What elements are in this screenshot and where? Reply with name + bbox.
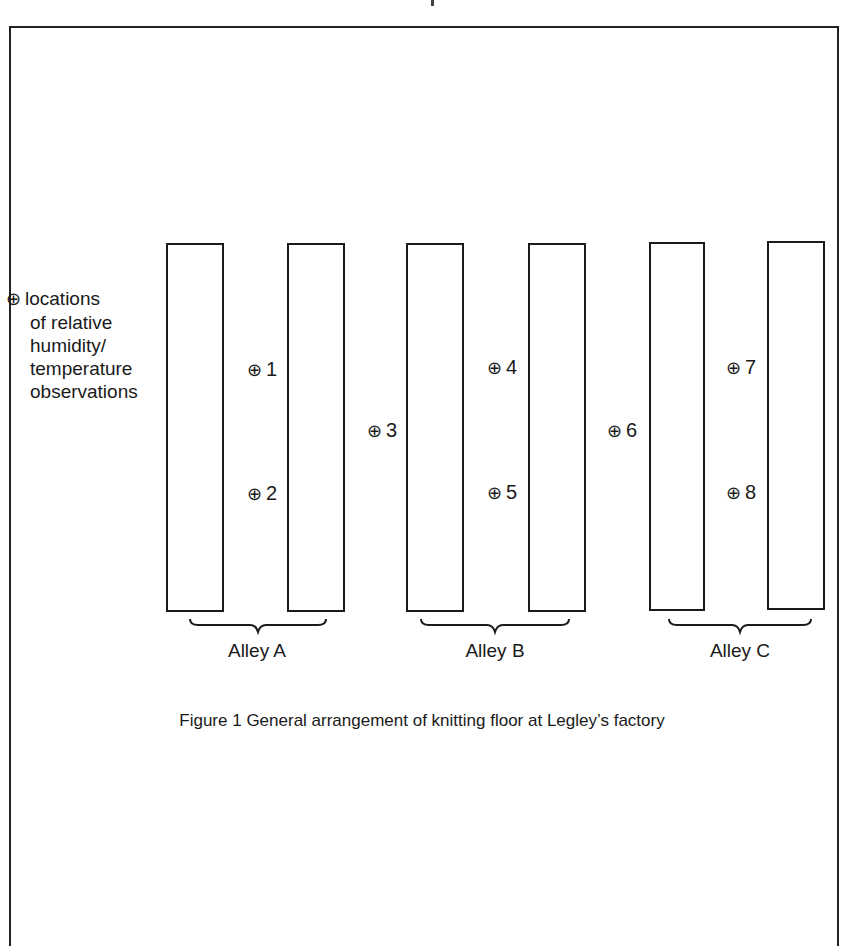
machine-row-3 [406,243,464,612]
legend: ⊕locations of relative humidity/ tempera… [6,287,138,403]
observation-marker-icon: ⊕ [487,483,502,503]
brace-alley-a [188,617,328,635]
observation-marker-icon: ⊕ [247,484,262,504]
brace-alley-b [419,617,571,635]
figure-caption: Figure 1 General arrangement of knitting… [0,711,844,731]
observation-marker-icon: ⊕ [367,421,382,441]
alley-label-c: Alley C [660,640,820,662]
legend-line: of relative [6,311,138,334]
alley-label-a: Alley A [177,640,337,662]
legend-line: observations [6,380,138,403]
observation-marker-icon: ⊕ [726,483,741,503]
observation-point-5: ⊕5 [487,482,517,503]
observation-point-7: ⊕7 [726,357,756,378]
observation-point-6: ⊕6 [607,420,637,441]
observation-marker-icon: ⊕ [607,421,622,441]
machine-row-6 [767,241,825,610]
machine-row-2 [287,243,345,612]
observation-point-1: ⊕1 [247,359,277,380]
brace-alley-c [667,617,813,635]
page-mark [431,0,434,6]
observation-point-8: ⊕8 [726,482,756,503]
legend-line: ⊕locations [6,287,138,311]
machine-row-4 [528,243,586,612]
observation-marker-icon: ⊕ [487,358,502,378]
observation-point-4: ⊕4 [487,357,517,378]
observation-marker-icon: ⊕ [247,360,262,380]
machine-row-1 [166,243,224,612]
observation-marker-icon: ⊕ [726,358,741,378]
legend-line: temperature [6,357,138,380]
legend-line: humidity/ [6,334,138,357]
observation-point-2: ⊕2 [247,483,277,504]
observation-marker-icon: ⊕ [6,289,21,309]
machine-row-5 [649,242,705,611]
alley-label-b: Alley B [415,640,575,662]
observation-point-3: ⊕3 [367,420,397,441]
